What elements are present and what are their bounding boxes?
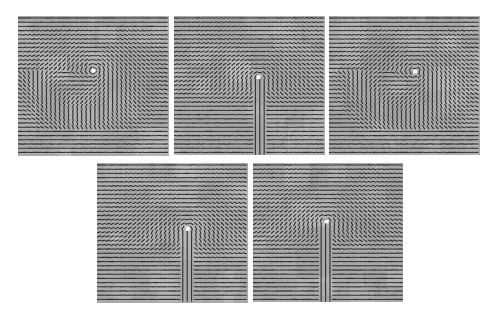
orientation-segment <box>111 249 115 250</box>
orientation-segment <box>289 34 293 35</box>
orientation-segment <box>200 230 201 234</box>
orientation-segment <box>390 223 393 225</box>
orientation-segment <box>138 122 141 124</box>
orientation-segment <box>164 81 168 82</box>
orientation-segment <box>372 173 376 174</box>
orientation-segment <box>302 177 306 178</box>
orientation-segment <box>138 101 141 104</box>
orientation-segment <box>102 47 105 48</box>
orientation-segment <box>316 93 319 95</box>
orientation-segment <box>360 35 364 36</box>
orientation-segment <box>80 35 84 36</box>
orientation-segment <box>284 198 287 200</box>
orientation-segment <box>418 126 420 129</box>
orientation-segment <box>116 71 118 74</box>
orientation-segment <box>289 88 292 91</box>
orientation-segment <box>205 34 209 35</box>
orientation-segment <box>440 117 442 120</box>
orientation-segment <box>276 34 280 35</box>
orientation-segment <box>302 18 306 19</box>
orientation-segment <box>45 126 48 128</box>
orientation-segment <box>449 126 452 128</box>
orientation-segment <box>28 96 30 99</box>
orientation-segment <box>221 169 225 170</box>
orientation-segment <box>320 30 324 31</box>
orientation-segment <box>46 104 47 108</box>
orientation-segment <box>116 126 119 128</box>
orientation-segment <box>302 97 305 98</box>
orientation-segment <box>386 219 389 221</box>
orientation-segment <box>102 232 105 233</box>
orientation-segment <box>423 113 424 117</box>
orientation-segment <box>146 114 149 116</box>
orientation-segment <box>19 84 22 86</box>
texture-blotch <box>267 224 279 236</box>
orientation-segment <box>253 190 257 191</box>
orientation-segment <box>382 76 386 77</box>
orientation-segment <box>68 117 69 121</box>
orientation-segment <box>280 55 283 57</box>
orientation-segment <box>297 165 301 166</box>
orientation-segment <box>225 219 228 221</box>
orientation-segment <box>440 30 444 31</box>
orientation-segment <box>138 97 140 100</box>
orientation-segment <box>293 249 297 250</box>
orientation-segment <box>355 173 359 174</box>
orientation-segment <box>267 35 271 36</box>
orientation-segment <box>227 106 231 107</box>
orientation-segment <box>386 215 389 217</box>
orientation-segment <box>422 55 425 57</box>
orientation-segment <box>155 210 158 212</box>
orientation-segment <box>404 39 408 40</box>
orientation-segment <box>138 84 141 87</box>
orientation-segment <box>289 106 293 107</box>
orientation-segment <box>214 106 218 107</box>
orientation-segment <box>419 105 420 108</box>
orientation-segment <box>97 203 101 204</box>
orientation-segment <box>99 113 100 117</box>
orientation-segment <box>267 47 271 48</box>
orientation-segment <box>258 72 262 73</box>
orientation-segment <box>409 63 412 65</box>
orientation-segment <box>386 227 389 229</box>
orientation-segment <box>293 181 297 182</box>
orientation-segment <box>343 68 347 69</box>
texture-blotch <box>254 238 266 250</box>
orientation-segment <box>343 76 346 79</box>
orientation-segment <box>400 51 403 52</box>
orientation-segment <box>315 249 319 250</box>
orientation-segment <box>102 202 106 203</box>
orientation-segment <box>18 39 22 40</box>
orientation-segment <box>334 226 335 230</box>
orientation-segment <box>320 80 323 82</box>
orientation-segment <box>436 126 438 129</box>
orientation-segment <box>80 76 83 78</box>
orientation-segment <box>276 92 279 95</box>
orientation-segment <box>221 227 224 230</box>
orientation-segment <box>343 56 347 57</box>
orientation-segment <box>106 249 110 250</box>
orientation-segment <box>347 55 351 56</box>
orientation-segment <box>222 235 224 238</box>
orientation-segment <box>125 71 127 74</box>
orientation-segment <box>134 84 136 87</box>
orientation-segment <box>138 80 141 83</box>
orientation-segment <box>108 88 109 91</box>
orientation-segment <box>275 177 279 178</box>
orientation-segment <box>293 22 297 23</box>
orientation-segment <box>196 26 200 27</box>
orientation-segment <box>129 75 131 78</box>
orientation-segment <box>212 223 215 226</box>
orientation-segment <box>239 227 242 229</box>
orientation-segment <box>217 202 220 204</box>
orientation-segment <box>422 59 425 61</box>
orientation-segment <box>320 97 324 98</box>
orientation-segment <box>108 79 109 83</box>
orientation-segment <box>137 194 140 195</box>
orientation-segment <box>216 177 220 178</box>
orientation-segment <box>342 206 345 208</box>
orientation-segment <box>111 190 115 191</box>
orientation-segment <box>303 88 306 90</box>
orientation-segment <box>262 177 266 178</box>
orientation-segment <box>218 106 222 107</box>
